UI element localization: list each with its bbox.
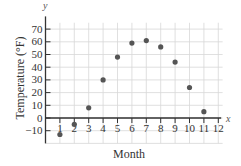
x-tick-label: 5	[115, 122, 121, 134]
x-tick-label: 8	[158, 122, 164, 134]
x-tick-label: 11	[199, 122, 210, 134]
y-axis-variable: y	[42, 0, 48, 11]
x-tick-label: 3	[86, 122, 92, 134]
tick-labels: −10010203040506070123456789101112	[25, 23, 224, 137]
data-point	[57, 132, 62, 137]
y-tick-label: −10	[25, 124, 43, 136]
y-tick-label: 70	[32, 23, 44, 35]
x-tick-label: 6	[129, 122, 135, 134]
x-tick-label: 10	[184, 122, 196, 134]
x-tick-label: 9	[172, 122, 178, 134]
x-axis-variable: x	[225, 113, 231, 124]
data-point	[144, 38, 149, 43]
data-point	[158, 44, 163, 49]
data-point	[173, 60, 178, 65]
y-tick-label: 50	[32, 48, 44, 60]
data-point	[72, 122, 77, 127]
data-point	[129, 40, 134, 45]
x-tick-label: 4	[100, 122, 106, 134]
y-tick-label: 30	[32, 73, 44, 85]
data-point	[187, 85, 192, 90]
data-point	[86, 105, 91, 110]
temperature-scatter-chart: −10010203040506070123456789101112 Month …	[0, 0, 241, 166]
x-axis-title: Month	[113, 147, 145, 161]
data-point	[201, 109, 206, 114]
y-tick-label: 20	[32, 86, 44, 98]
data-point	[115, 54, 120, 59]
y-tick-label: 0	[37, 112, 43, 124]
x-tick-label: 12	[213, 122, 224, 134]
y-axis-title: Temperature (°F)	[13, 37, 27, 120]
y-tick-label: 40	[32, 61, 44, 73]
data-point	[101, 77, 106, 82]
x-tick-label: 7	[144, 122, 150, 134]
y-tick-label: 60	[32, 35, 44, 47]
y-tick-label: 10	[32, 99, 44, 111]
